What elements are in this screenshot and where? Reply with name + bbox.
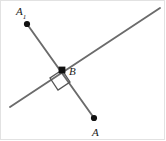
point-label-a1-base: A [16, 5, 23, 17]
geometry-canvas [0, 0, 166, 141]
point-a-dot [91, 115, 97, 121]
point-b-dot [59, 67, 66, 74]
point-label-a1: A1 [16, 6, 26, 20]
point-label-a: A [92, 127, 99, 138]
point-a1-dot [24, 21, 30, 27]
geometry-figure: A1 B A [0, 0, 166, 141]
point-label-a1-subscript: 1 [23, 13, 27, 21]
point-label-b: B [69, 66, 76, 77]
diagonal-line [10, 8, 160, 107]
